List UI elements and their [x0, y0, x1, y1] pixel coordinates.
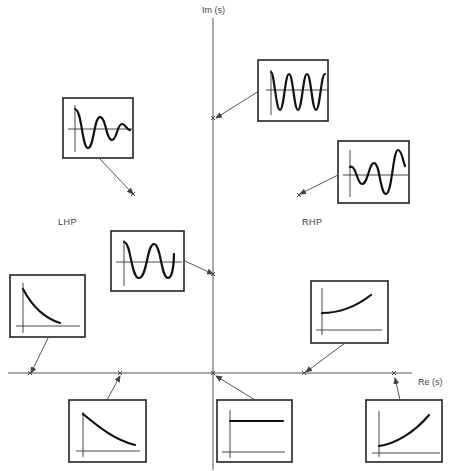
- real-axis: Re (s): [8, 373, 443, 387]
- rhp-label: RHP: [302, 217, 323, 227]
- response-box-sustained-low-freq: [111, 231, 213, 291]
- lhp-label: LHP: [58, 217, 77, 227]
- imaginary-axis-label: Im (s): [202, 5, 225, 15]
- response-box-damped-oscillation: [63, 98, 133, 194]
- s-plane-diagram: Im (s) Re (s) LHP RHP: [0, 0, 452, 471]
- response-box-sustained-high-freq: [216, 60, 328, 121]
- response-box-fast-decay: [10, 275, 85, 373]
- response-box-fast-growth: [366, 378, 442, 462]
- real-axis-label: Re (s): [418, 377, 443, 387]
- response-box-growing-oscillation: [300, 141, 409, 203]
- response-box-constant: [216, 376, 292, 462]
- response-box-slow-growth: [306, 281, 388, 372]
- response-box-slow-decay: [69, 376, 146, 462]
